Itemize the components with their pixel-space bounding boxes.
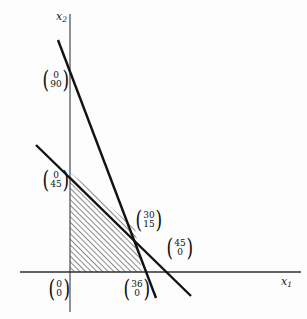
vector-stack: 0 0: [56, 280, 63, 299]
x-axis-label-subscript: 1: [287, 280, 292, 289]
paren-left: (: [124, 279, 131, 300]
paren-left: (: [43, 170, 50, 191]
paren-right: ): [63, 279, 70, 300]
paren-right: ): [156, 210, 163, 231]
point-label-36-0: ( 36 0 ): [122, 279, 152, 300]
vector-bottom-value: 45: [50, 180, 61, 190]
y-axis-label: x2: [56, 10, 67, 23]
vector-bottom-value: 90: [50, 80, 61, 90]
vector-stack: 36 0: [131, 280, 143, 299]
paren-left: (: [136, 210, 143, 231]
vector-stack: 0 45: [50, 171, 62, 190]
linear-programming-diagram: x2 x1 ( 0 90 ) ( 0 45 ) ( 0 0 ) ( 36 0: [0, 0, 307, 319]
vector-bottom-value: 15: [143, 220, 154, 230]
paren-right: ): [63, 170, 70, 191]
vector-bottom-value: 0: [134, 289, 140, 299]
paren-left: (: [167, 238, 174, 259]
point-label-0-90: ( 0 90 ): [41, 70, 71, 91]
constraint-line-shallow: [36, 145, 191, 296]
vector-stack: 45 0: [174, 239, 186, 258]
paren-right: ): [187, 238, 194, 259]
point-label-30-15: ( 30 15 ): [134, 210, 164, 231]
paren-left: (: [49, 279, 56, 300]
point-label-45-0: ( 45 0 ): [165, 238, 195, 259]
vector-bottom-value: 0: [56, 289, 62, 299]
point-label-0-45: ( 0 45 ): [41, 170, 71, 191]
vector-bottom-value: 0: [177, 248, 183, 258]
y-axis-label-subscript: 2: [62, 15, 67, 24]
vector-stack: 0 90: [50, 71, 62, 90]
point-label-0-0: ( 0 0 ): [47, 279, 71, 300]
plot-canvas: [0, 0, 307, 319]
vector-stack: 30 15: [143, 211, 155, 230]
paren-left: (: [43, 70, 50, 91]
x-axis-label: x1: [281, 275, 292, 288]
paren-right: ): [144, 279, 151, 300]
paren-right: ): [63, 70, 70, 91]
